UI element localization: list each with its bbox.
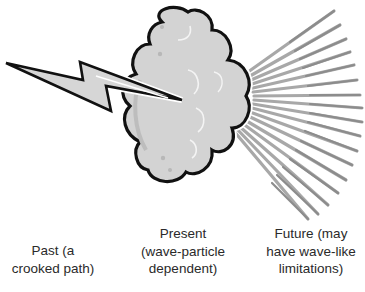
label-past-line1: Past (a <box>0 242 106 260</box>
label-present-line2: (wave-particle <box>128 243 238 261</box>
label-present-line1: Present <box>128 225 238 243</box>
time-diagram-art <box>0 0 365 225</box>
label-future: Future (may have wave-like limitations) <box>255 225 365 278</box>
label-future-line3: limitations) <box>255 260 365 278</box>
label-future-line1: Future (may <box>255 225 365 243</box>
label-present-line3: dependent) <box>128 260 238 278</box>
label-future-line2: have wave-like <box>255 243 365 261</box>
label-past: Past (a crooked path) <box>0 242 106 277</box>
label-present: Present (wave-particle dependent) <box>128 225 238 278</box>
label-past-line2: crooked path) <box>0 260 106 278</box>
rays-icon <box>233 11 362 219</box>
